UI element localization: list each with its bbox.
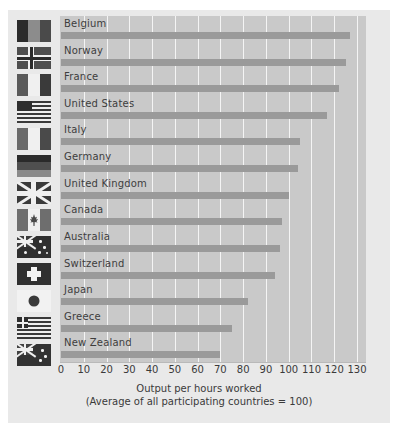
bar-row: Italy <box>60 122 366 149</box>
bar <box>61 192 289 199</box>
bar-row: Greece <box>60 309 366 336</box>
flag-cell-japan <box>14 288 54 314</box>
bar <box>61 138 300 145</box>
x-axis-line <box>60 362 366 363</box>
x-tick-label: 110 <box>302 364 321 375</box>
bar-row-label: Switzerland <box>64 257 125 270</box>
bar-row-label: Italy <box>64 123 87 136</box>
x-tick-label: 60 <box>191 364 204 375</box>
bar-row-label: Germany <box>64 150 111 163</box>
bar <box>61 245 280 252</box>
x-tick-label: 20 <box>100 364 113 375</box>
flag-cell-united-states <box>14 99 54 125</box>
australia-flag <box>17 236 51 258</box>
greece-flag <box>17 317 51 339</box>
germany-flag <box>17 155 51 177</box>
x-tick-label: 80 <box>237 364 250 375</box>
bar-row: United States <box>60 96 366 123</box>
x-axis-subtitle: (Average of all participating countries … <box>8 395 390 408</box>
bar-row: Germany <box>60 149 366 176</box>
flag-cell-belgium <box>14 18 54 44</box>
bar-row: Switzerland <box>60 256 366 283</box>
bar-row-label: Australia <box>64 230 110 243</box>
bar <box>61 272 275 279</box>
bar-row: New Zealand <box>60 335 366 362</box>
flag-cell-france <box>14 72 54 98</box>
x-tick-label: 70 <box>214 364 227 375</box>
france-flag <box>17 74 51 96</box>
x-tick-label: 90 <box>260 364 273 375</box>
bar <box>61 218 282 225</box>
italy-flag <box>17 128 51 150</box>
bar <box>61 165 298 172</box>
bar-row: Norway <box>60 43 366 70</box>
flag-cell-germany <box>14 153 54 179</box>
bar <box>61 85 339 92</box>
bar-row-label: United Kingdom <box>64 177 147 190</box>
x-tick-label: 120 <box>325 364 344 375</box>
bar <box>61 325 232 332</box>
bar-row: Belgium <box>60 16 366 43</box>
bar-row: Australia <box>60 229 366 256</box>
flag-cell-australia <box>14 234 54 260</box>
bar-row: Japan <box>60 282 366 309</box>
bar <box>61 112 327 119</box>
bar-row: Canada <box>60 202 366 229</box>
x-tick-label: 30 <box>123 364 136 375</box>
flag-column <box>14 18 54 376</box>
switzerland-flag <box>17 263 51 285</box>
united-kingdom-flag <box>17 182 51 204</box>
flag-cell-greece <box>14 315 54 341</box>
flag-cell-united-kingdom <box>14 180 54 206</box>
flag-cell-canada <box>14 207 54 233</box>
flag-cell-norway <box>14 45 54 71</box>
flag-cell-new-zealand <box>14 342 54 368</box>
bar-row-label: Belgium <box>64 17 106 30</box>
bar-row-label: France <box>64 70 98 83</box>
bar-row-label: Norway <box>64 44 103 57</box>
flag-cell-italy <box>14 126 54 152</box>
norway-flag <box>17 47 51 69</box>
canada-flag <box>17 209 51 231</box>
x-tick-label: 0 <box>58 364 64 375</box>
x-tick-label: 130 <box>347 364 366 375</box>
x-tick-label: 10 <box>77 364 90 375</box>
belgium-flag <box>17 20 51 42</box>
plot-area: BelgiumNorwayFranceUnited StatesItalyGer… <box>60 16 366 362</box>
bar-row-label: United States <box>64 97 134 110</box>
bar <box>61 298 248 305</box>
x-axis-title: Output per hours worked <box>8 382 390 395</box>
x-tick-label: 100 <box>279 364 298 375</box>
united-states-flag <box>17 101 51 123</box>
bar-row-label: Greece <box>64 310 101 323</box>
bar <box>61 351 220 358</box>
chart-root: BelgiumNorwayFranceUnited StatesItalyGer… <box>0 0 398 436</box>
bar-row-label: New Zealand <box>64 336 132 349</box>
japan-flag <box>17 290 51 312</box>
bar-row-label: Japan <box>64 283 93 296</box>
bar-row: France <box>60 69 366 96</box>
bar <box>61 32 350 39</box>
bar <box>61 59 346 66</box>
bar-row: United Kingdom <box>60 176 366 203</box>
bar-row-label: Canada <box>64 203 103 216</box>
flag-cell-switzerland <box>14 261 54 287</box>
x-tick-label: 50 <box>168 364 181 375</box>
new-zealand-flag <box>17 344 51 366</box>
x-tick-label: 40 <box>146 364 159 375</box>
